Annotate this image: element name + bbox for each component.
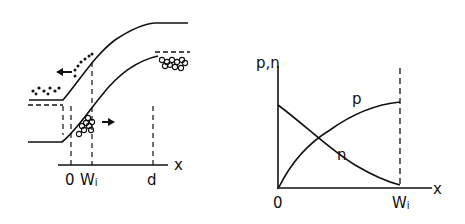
- n-curve: [278, 105, 400, 185]
- diagram-canvas: x 0 Wi d p,n x p n 0 Wi: [0, 0, 465, 224]
- wi-end-label-main: W: [392, 194, 407, 212]
- tick-label-wi: Wi: [80, 171, 98, 189]
- y-axis-label-right: p,n: [256, 54, 280, 72]
- hole-drift-arrow: [102, 118, 115, 126]
- x-axis-label-left: x: [174, 156, 183, 174]
- wi-end-label: Wi: [392, 194, 410, 212]
- tick-label-wi-sub: i: [95, 177, 98, 188]
- tick-label-wi-main: W: [80, 171, 95, 189]
- tick-label-0: 0: [65, 171, 75, 189]
- left-band-diagram: [28, 23, 190, 165]
- hole-circles-right: [159, 57, 187, 70]
- p-curve-label: p: [352, 90, 362, 108]
- right-concentration-plot: [277, 66, 432, 189]
- n-curve-label: n: [337, 146, 347, 164]
- origin-label: 0: [273, 194, 283, 212]
- electron-drift-arrow: [56, 68, 72, 76]
- p-curve: [279, 102, 400, 187]
- tick-label-d: d: [147, 171, 157, 189]
- wi-end-label-sub: i: [407, 200, 410, 211]
- x-axis-label-right: x: [433, 180, 442, 198]
